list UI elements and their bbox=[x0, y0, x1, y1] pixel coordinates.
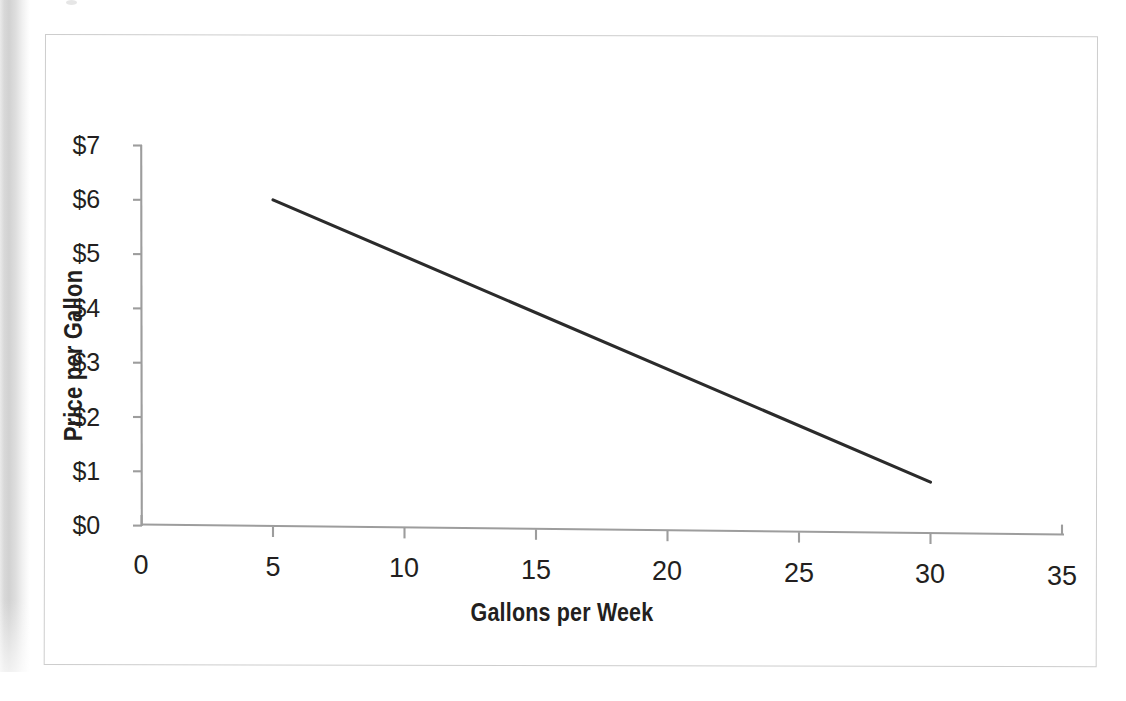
chart-page: $7 $6 $5 $4 $3 $2 $1 $0 0 5 10 15 20 25 … bbox=[0, 0, 1126, 701]
scan-gutter-fade bbox=[0, 600, 30, 701]
x-tick-label-15: 15 bbox=[501, 557, 571, 584]
x-tick-label-25: 25 bbox=[764, 560, 834, 587]
y-axis-title: Price per Gallon bbox=[59, 238, 88, 472]
x-tick-label-10: 10 bbox=[369, 555, 439, 582]
scan-artifact-speck bbox=[66, 0, 77, 5]
x-tick-label-0: 0 bbox=[106, 552, 176, 579]
x-tick-label-35: 35 bbox=[1027, 563, 1097, 590]
y-tick-label-6: $6 bbox=[36, 187, 100, 212]
x-tick-label-5: 5 bbox=[238, 554, 308, 581]
scan-gutter-shadow bbox=[0, 0, 30, 672]
y-axis-title-container: Price per Gallon bbox=[52, 225, 92, 485]
y-tick-label-7: $7 bbox=[36, 133, 100, 158]
x-tick-label-20: 20 bbox=[632, 558, 702, 585]
x-axis-title: Gallons per Week bbox=[326, 598, 799, 627]
y-tick-label-0: $0 bbox=[36, 513, 100, 538]
x-tick-label-30: 30 bbox=[895, 561, 965, 588]
